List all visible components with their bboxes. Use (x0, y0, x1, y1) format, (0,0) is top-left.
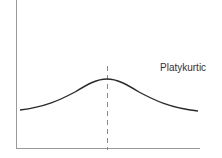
kurtosis-diagram (0, 0, 222, 158)
platykurtic-curve (20, 79, 198, 111)
curve-label: Platykurtic (160, 62, 206, 73)
